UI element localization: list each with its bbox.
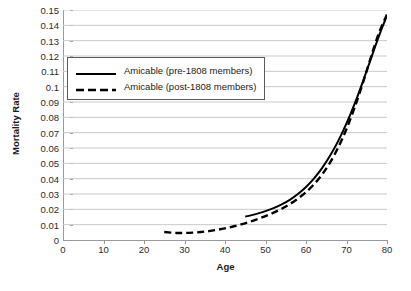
y-tick-label: 0.01 <box>13 219 59 230</box>
legend-label-post-1808: Amicable (post-1808 members) <box>124 81 257 92</box>
y-tick-label: 0.13 <box>13 35 59 46</box>
x-tick-label: 60 <box>301 244 312 255</box>
y-tick-label: 0.03 <box>13 189 59 200</box>
x-tick-mark <box>104 241 105 244</box>
y-tick-label: 0.15 <box>13 5 59 16</box>
x-tick-mark <box>225 241 226 244</box>
chart-legend: Amicable (pre-1808 members) Amicable (po… <box>67 57 265 100</box>
y-tick-label: 0.04 <box>13 173 59 184</box>
x-tick-mark <box>347 241 348 244</box>
x-tick-label: 80 <box>382 244 393 255</box>
x-tick-mark <box>266 241 267 244</box>
legend-label-pre-1808: Amicable (pre-1808 members) <box>124 65 252 76</box>
x-tick-label: 0 <box>60 244 65 255</box>
y-axis-title: Mortality Rate <box>10 74 21 174</box>
x-tick-mark <box>185 241 186 244</box>
x-tick-label: 30 <box>179 244 190 255</box>
legend-item-pre-1808: Amicable (pre-1808 members) <box>75 62 257 78</box>
y-tick-label: 0.12 <box>13 51 59 62</box>
y-tick-label: 0.14 <box>13 20 59 31</box>
x-tick-mark <box>306 241 307 244</box>
y-tick-label: 0.02 <box>13 204 59 215</box>
y-tick-mark <box>70 240 73 241</box>
x-tick-label: 50 <box>260 244 271 255</box>
x-tick-mark <box>144 241 145 244</box>
x-tick-mark <box>387 241 388 244</box>
legend-item-post-1808: Amicable (post-1808 members) <box>75 78 257 94</box>
series-line <box>164 15 387 233</box>
mortality-rate-chart: 00.010.020.030.040.050.060.070.080.090.1… <box>0 0 411 291</box>
x-tick-label: 70 <box>341 244 352 255</box>
x-tick-label: 10 <box>98 244 109 255</box>
x-axis-title: Age <box>63 261 388 272</box>
x-tick-label: 40 <box>220 244 231 255</box>
x-tick-label: 20 <box>139 244 150 255</box>
plot-area <box>63 10 387 240</box>
y-tick-label: 0 <box>13 235 59 246</box>
data-series-layer <box>63 10 387 240</box>
legend-swatch-solid <box>75 65 117 75</box>
legend-swatch-dashed <box>75 81 117 91</box>
series-line <box>245 15 387 216</box>
